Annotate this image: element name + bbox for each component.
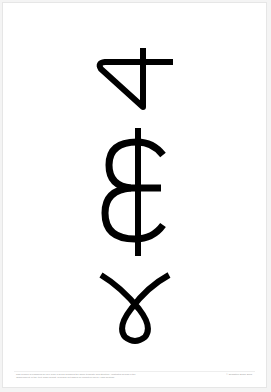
rotated-four-glyph-icon: [91, 45, 177, 111]
loop-gamma-glyph-icon: [95, 269, 175, 345]
footer-credit: © Sébastien Blanc 2015: [226, 373, 252, 376]
footer-divider: [14, 371, 255, 372]
cedi-like-glyph-icon: [91, 125, 177, 259]
footer-caption: This symbol is published for free from a…: [16, 373, 146, 379]
poster: This symbol is published for free from a…: [2, 2, 267, 388]
